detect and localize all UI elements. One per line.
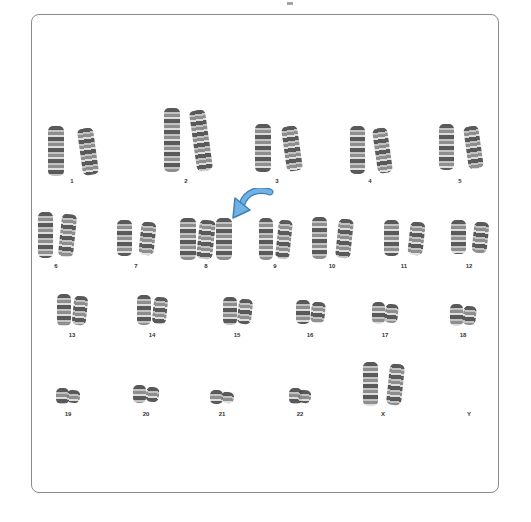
- chromosome-label-2: 2: [184, 178, 187, 184]
- chromosome-label-19: 19: [65, 411, 72, 417]
- chromosome-label-22: 22: [297, 411, 304, 417]
- chromosome-12-copy-2: [471, 221, 489, 253]
- chromosome-4-copy-1: [350, 126, 365, 174]
- chromosome-label-11: 11: [401, 263, 407, 269]
- chromosome-18-copy-2: [462, 305, 477, 325]
- chromosome-22-copy-2: [298, 389, 312, 403]
- chromosome-label-10: 10: [329, 263, 336, 269]
- chromosome-label-20: 20: [143, 411, 150, 417]
- top-edge-mark: [287, 2, 293, 5]
- chromosome-label-17: 17: [382, 332, 389, 338]
- chromosome-17-copy-1: [372, 302, 385, 324]
- chromosome-6-copy-1: [38, 212, 53, 258]
- chromosome-17-copy-2: [384, 303, 399, 323]
- chromosome-label-8: 8: [204, 263, 207, 269]
- chromosome-label-4: 4: [368, 178, 371, 184]
- chromosome-label-18: 18: [460, 332, 467, 338]
- chromosome-18-copy-1: [450, 304, 463, 326]
- chromosome-8-copy-3: [216, 218, 232, 260]
- chromosome-label-9: 9: [273, 263, 276, 269]
- chromosome-9-copy-1: [259, 218, 273, 260]
- chromosome-7-copy-1: [117, 220, 132, 256]
- chromosome-label-5: 5: [458, 178, 461, 184]
- chromosome-20-copy-1: [133, 385, 146, 403]
- chromosome-16-copy-1: [296, 300, 310, 324]
- chromosome-11-copy-1: [384, 220, 399, 256]
- chromosome-label-21: 21: [219, 411, 226, 417]
- chromosome-label-X: X: [381, 411, 385, 417]
- chromosome-label-14: 14: [149, 332, 156, 338]
- highlight-arrow-icon: [230, 188, 274, 222]
- chromosome-12-copy-1: [451, 220, 466, 254]
- chromosome-21-copy-2: [220, 391, 234, 403]
- chromosome-label-6: 6: [54, 263, 57, 269]
- chromosome-label-12: 12: [466, 263, 473, 269]
- chromosome-1-copy-1: [48, 126, 64, 176]
- chromosome-5-copy-1: [439, 124, 454, 170]
- chromosome-20-copy-2: [145, 386, 160, 402]
- chromosome-16-copy-2: [309, 301, 325, 323]
- chromosome-label-7: 7: [134, 263, 137, 269]
- chromosome-label-15: 15: [234, 332, 241, 338]
- chromosome-label-13: 13: [69, 332, 76, 338]
- chromosome-X-copy-1: [363, 362, 378, 406]
- chromosome-2-copy-1: [164, 108, 180, 172]
- chromosome-14-copy-1: [137, 295, 151, 325]
- chromosome-label-3: 3: [275, 178, 278, 184]
- chromosome-19-copy-2: [66, 389, 80, 403]
- chromosome-15-copy-2: [236, 298, 252, 324]
- chromosome-label-Y: Y: [467, 411, 471, 417]
- chromosome-15-copy-1: [223, 297, 237, 325]
- chromosome-10-copy-1: [312, 217, 327, 259]
- chromosome-label-1: 1: [70, 178, 73, 184]
- chromosome-3-copy-1: [255, 124, 271, 172]
- chromosome-13-copy-1: [57, 294, 71, 326]
- chromosome-8-copy-1: [180, 218, 196, 260]
- chromosome-label-16: 16: [307, 332, 314, 338]
